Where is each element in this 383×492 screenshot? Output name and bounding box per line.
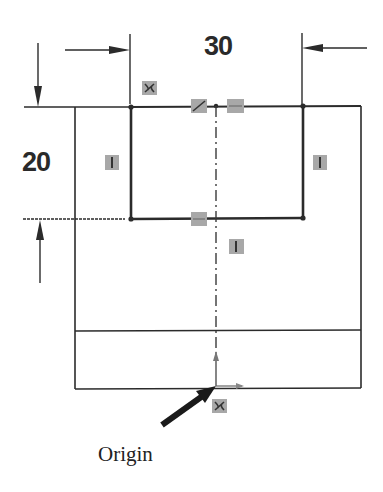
arrow-up-icon: [36, 220, 44, 240]
sketch-canvas: [0, 0, 383, 492]
relation-coincident-origin[interactable]: [212, 399, 227, 413]
slot-bottom-edge[interactable]: [131, 218, 303, 219]
top-edge[interactable]: [130, 106, 361, 107]
outer-bottom-edge[interactable]: [75, 388, 361, 389]
dimension-height-value[interactable]: 20: [22, 147, 50, 178]
relation-vertical-left[interactable]: [105, 155, 119, 170]
inner-horizontal-line[interactable]: [75, 330, 361, 331]
arrow-right-icon: [109, 46, 130, 54]
slot-rectangle: [131, 106, 303, 219]
vertex-bottom-left[interactable]: [128, 216, 133, 221]
vertex-top-left[interactable]: [128, 104, 133, 109]
relation-vertical-right[interactable]: [313, 155, 327, 170]
relation-midpoint-top[interactable]: [191, 99, 207, 113]
arrow-down-icon: [34, 86, 42, 107]
relation-horizontal-bottom[interactable]: [191, 212, 207, 226]
relation-coincident-top-left[interactable]: [142, 81, 157, 95]
origin-y-arrow-icon: [213, 351, 219, 361]
dimension-width-value[interactable]: 30: [204, 31, 232, 62]
arrow-left-icon: [302, 44, 323, 52]
slot-vertices: [128, 103, 305, 221]
vertex-bottom-right[interactable]: [300, 215, 305, 220]
relation-vertical-centerline[interactable]: [229, 239, 244, 254]
origin-label: Origin: [98, 442, 153, 467]
outer-profile: [24, 106, 361, 389]
vertex-top-right[interactable]: [300, 103, 305, 108]
pointer-shaft: [162, 395, 204, 425]
origin-pointer: [162, 386, 216, 425]
relation-horizontal-top[interactable]: [227, 99, 244, 113]
